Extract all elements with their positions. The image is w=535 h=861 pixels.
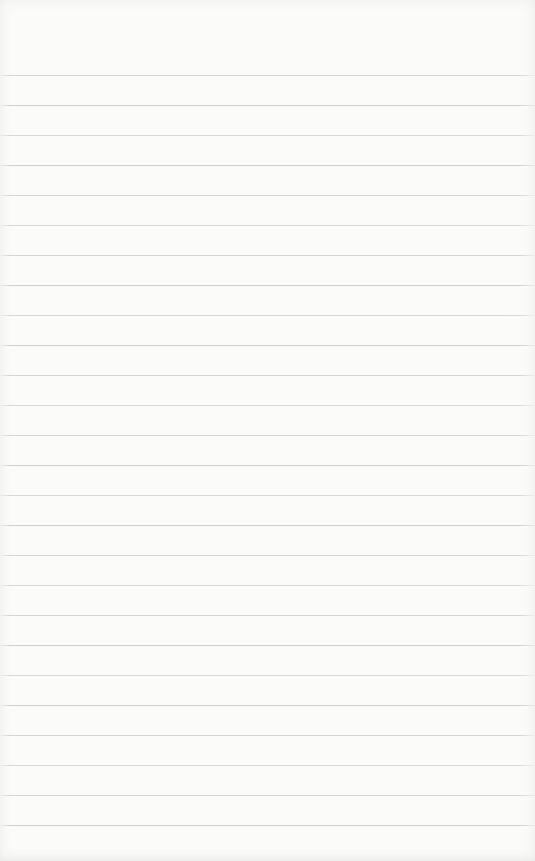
ruled-line [0,765,535,766]
ruled-line [0,645,535,646]
ruled-line [0,825,535,826]
notebook-page [0,0,535,861]
ruled-line [0,195,535,196]
ruled-line [0,375,535,376]
ruled-line [0,345,535,346]
ruled-line [0,315,535,316]
ruled-line [0,135,535,136]
ruled-line [0,795,535,796]
ruled-line [0,255,535,256]
ruled-line [0,615,535,616]
ruled-line [0,285,535,286]
ruled-line [0,735,535,736]
ruled-line [0,705,535,706]
ruled-line [0,675,535,676]
ruled-line [0,225,535,226]
ruled-line [0,585,535,586]
ruled-line [0,555,535,556]
ruled-line [0,105,535,106]
ruled-line [0,75,535,76]
ruled-line [0,165,535,166]
ruled-line [0,405,535,406]
ruled-line [0,495,535,496]
ruled-line [0,435,535,436]
ruled-line [0,465,535,466]
ruled-line [0,525,535,526]
